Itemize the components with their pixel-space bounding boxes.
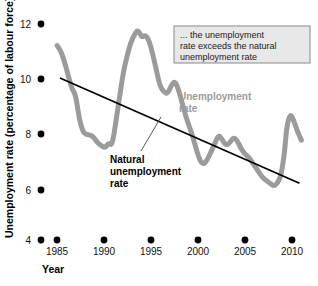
x-tick-label: 2000 [187, 246, 210, 257]
y-tick-dot [38, 237, 45, 244]
x-tick-dot [54, 237, 61, 244]
unemployment-rate-chart: Unemployment rate (percentage of labour … [0, 0, 318, 286]
callout-annotation: ... the unemployment rate exceeds the na… [174, 26, 310, 63]
callout-line-1: ... the unemployment [180, 30, 265, 40]
y-tick-label: 4 [25, 235, 31, 246]
x-tick-label: 1995 [140, 246, 163, 257]
x-tick-dot [289, 237, 296, 244]
y-tick-dot [38, 131, 45, 138]
x-tick-dot [101, 237, 108, 244]
x-tick-label: 1985 [46, 246, 69, 257]
natural-rate-label-line-1: Natural [110, 154, 145, 165]
x-tick-label: 1990 [93, 246, 116, 257]
y-tick-label: 6 [25, 185, 31, 196]
y-tick-label: 8 [25, 129, 31, 140]
y-tick-dot [38, 76, 45, 83]
x-tick-label: 2005 [234, 246, 257, 257]
x-tick-dot [148, 237, 155, 244]
x-tick-dot [242, 237, 249, 244]
unemployment-rate-label-line-1: Unemployment [179, 91, 252, 102]
y-tick-dot [38, 187, 45, 194]
y-tick-label: 12 [20, 19, 32, 30]
x-tick-label: 2010 [281, 246, 304, 257]
x-axis-title: Year [42, 263, 64, 275]
unemployment-rate-label-line-2: rate [179, 103, 198, 114]
natural-rate-label-line-3: rate [110, 178, 129, 189]
callout-line-3: unemployment rate [180, 52, 257, 62]
y-axis-title: Unemployment rate (percentage of labour … [3, 0, 15, 238]
natural-rate-label-line-2: unemployment [110, 166, 182, 177]
y-tick-label: 10 [20, 74, 32, 85]
callout-line-2: rate exceeds the natural [180, 41, 277, 51]
y-tick-dot [38, 21, 45, 28]
x-tick-dot [195, 237, 202, 244]
